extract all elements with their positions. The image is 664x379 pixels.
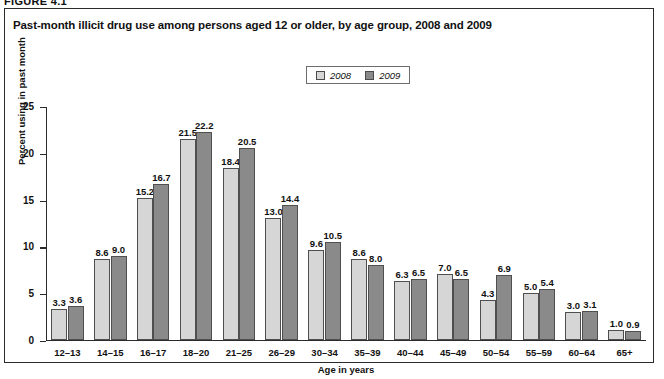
bar-2008-18–20: 21.5 bbox=[180, 139, 196, 340]
legend-label-2009: 2009 bbox=[379, 70, 400, 81]
y-axis-tick-label: 15 bbox=[0, 195, 34, 206]
bar-2009-40–44: 6.5 bbox=[411, 279, 427, 340]
bar-2008-30–34: 9.6 bbox=[308, 250, 324, 340]
legend-swatch-2009 bbox=[365, 71, 374, 80]
bar-2009-60–64: 3.1 bbox=[582, 311, 598, 340]
bar-value-label: 8.6 bbox=[353, 247, 366, 258]
x-axis-tick-label: 26–29 bbox=[268, 347, 294, 358]
y-axis-tick-label: 25 bbox=[0, 101, 34, 112]
x-axis-tick-label: 12–13 bbox=[54, 347, 80, 358]
bar-value-label: 15.2 bbox=[136, 186, 155, 197]
y-axis-tick-label: 0 bbox=[0, 335, 34, 346]
bar-value-label: 8.0 bbox=[369, 253, 382, 264]
bar-value-label: 9.0 bbox=[112, 244, 125, 255]
figure-number: FIGURE 4.1 bbox=[4, 0, 67, 7]
y-axis-tick bbox=[40, 341, 46, 342]
x-axis-tick-label: 30–34 bbox=[311, 347, 337, 358]
bar-2008-26–29: 13.0 bbox=[265, 218, 281, 340]
bar-value-label: 7.0 bbox=[438, 262, 451, 273]
bar-value-label: 3.6 bbox=[69, 294, 82, 305]
x-axis-tick-label: 45–49 bbox=[440, 347, 466, 358]
bar-group: 9.610.5 bbox=[308, 106, 341, 340]
bar-group: 13.014.4 bbox=[265, 106, 298, 340]
bar-group: 7.06.5 bbox=[437, 106, 470, 340]
bar-group: 4.36.9 bbox=[480, 106, 513, 340]
x-axis-tick-label: 16–17 bbox=[140, 347, 166, 358]
chart-legend: 2008 2009 bbox=[306, 66, 410, 84]
bar-group: 3.33.6 bbox=[51, 106, 84, 340]
bar-2009-14–15: 9.0 bbox=[111, 256, 127, 340]
bar-value-label: 20.5 bbox=[238, 136, 257, 147]
bar-group: 15.216.7 bbox=[137, 106, 170, 340]
bar-value-label: 13.0 bbox=[264, 206, 283, 217]
bar-value-label: 5.4 bbox=[540, 277, 553, 288]
bar-group: 3.03.1 bbox=[565, 106, 598, 340]
bar-value-label: 6.5 bbox=[412, 267, 425, 278]
bar-2009-21–25: 20.5 bbox=[239, 148, 255, 340]
figure-title: Past-month illicit drug use among person… bbox=[13, 19, 492, 31]
bar-2009-12–13: 3.6 bbox=[68, 306, 84, 340]
bar-value-label: 3.3 bbox=[53, 297, 66, 308]
x-axis-tick-label: 60–64 bbox=[568, 347, 594, 358]
y-axis-tick-label: 20 bbox=[0, 148, 34, 159]
bar-2009-16–17: 16.7 bbox=[153, 184, 169, 340]
bar-2008-35–39: 8.6 bbox=[351, 259, 367, 339]
legend-label-2008: 2008 bbox=[330, 70, 351, 81]
bar-2008-55–59: 5.0 bbox=[523, 293, 539, 340]
bar-value-label: 6.5 bbox=[455, 267, 468, 278]
x-axis-line bbox=[46, 340, 646, 341]
x-axis-tick-label: 14–15 bbox=[97, 347, 123, 358]
y-axis-tick-label: 10 bbox=[0, 241, 34, 252]
bar-2008-60–64: 3.0 bbox=[565, 312, 581, 340]
x-axis-tick-label: 35–39 bbox=[354, 347, 380, 358]
legend-swatch-2008 bbox=[316, 71, 325, 80]
bar-value-label: 4.3 bbox=[481, 288, 494, 299]
bar-2008-45–49: 7.0 bbox=[437, 274, 453, 340]
bar-2008-65+: 1.0 bbox=[608, 330, 624, 339]
bar-2008-21–25: 18.4 bbox=[223, 168, 239, 340]
bar-2009-18–20: 22.2 bbox=[196, 132, 212, 340]
x-axis-title: Age in years bbox=[318, 364, 375, 375]
plot-area: 0510152025 3.33.68.69.015.216.721.522.21… bbox=[46, 100, 646, 341]
legend-item-2008: 2008 bbox=[316, 70, 351, 81]
legend-item-2009: 2009 bbox=[365, 70, 400, 81]
bar-value-label: 0.9 bbox=[626, 319, 639, 330]
bar-2008-40–44: 6.3 bbox=[394, 281, 410, 340]
bar-2008-12–13: 3.3 bbox=[51, 309, 67, 340]
y-axis-tick-label: 5 bbox=[0, 288, 34, 299]
bars-layer: 3.33.68.69.015.216.721.522.218.420.513.0… bbox=[46, 106, 646, 340]
bar-2008-16–17: 15.2 bbox=[137, 198, 153, 340]
bar-group: 18.420.5 bbox=[223, 106, 256, 340]
x-axis-tick-label: 50–54 bbox=[483, 347, 509, 358]
bar-2009-45–49: 6.5 bbox=[453, 279, 469, 340]
x-axis-tick-label: 55–59 bbox=[526, 347, 552, 358]
bar-group: 8.69.0 bbox=[94, 106, 127, 340]
bar-2008-50–54: 4.3 bbox=[480, 300, 496, 340]
bar-value-label: 10.5 bbox=[324, 230, 343, 241]
bar-group: 8.68.0 bbox=[351, 106, 384, 340]
bar-value-label: 22.2 bbox=[195, 120, 214, 131]
bar-value-label: 3.0 bbox=[567, 300, 580, 311]
bar-value-label: 6.3 bbox=[395, 269, 408, 280]
bar-2009-30–34: 10.5 bbox=[325, 242, 341, 340]
bar-2009-65+: 0.9 bbox=[625, 331, 641, 339]
bar-value-label: 14.4 bbox=[281, 193, 300, 204]
x-axis-tick-label: 65+ bbox=[617, 347, 633, 358]
bar-2009-50–54: 6.9 bbox=[496, 275, 512, 340]
x-axis-tick-label: 21–25 bbox=[226, 347, 252, 358]
bar-value-label: 9.6 bbox=[310, 238, 323, 249]
x-axis-tick-label: 40–44 bbox=[397, 347, 423, 358]
bar-value-label: 8.6 bbox=[95, 247, 108, 258]
bar-value-label: 1.0 bbox=[610, 318, 623, 329]
bar-group: 21.522.2 bbox=[180, 106, 213, 340]
bar-value-label: 16.7 bbox=[152, 172, 171, 183]
bar-2009-55–59: 5.4 bbox=[539, 289, 555, 340]
bar-value-label: 6.9 bbox=[498, 263, 511, 274]
bar-group: 6.36.5 bbox=[394, 106, 427, 340]
bar-group: 1.00.9 bbox=[608, 106, 641, 340]
bar-2009-26–29: 14.4 bbox=[282, 205, 298, 340]
bar-value-label: 5.0 bbox=[524, 281, 537, 292]
x-axis-tick-label: 18–20 bbox=[183, 347, 209, 358]
bar-group: 5.05.4 bbox=[523, 106, 556, 340]
bar-2008-14–15: 8.6 bbox=[94, 259, 110, 339]
